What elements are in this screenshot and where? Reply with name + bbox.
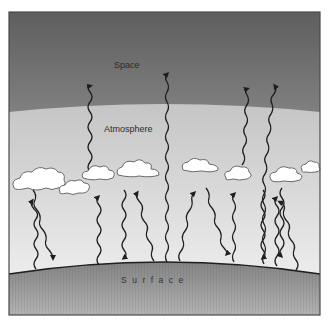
space-label: Space [114,60,140,70]
atmosphere-label: Atmosphere [104,124,153,134]
surface-region [9,262,320,315]
greenhouse-diagram: Space Atmosphere Surface [0,0,329,323]
surface-label: Surface [121,275,189,285]
space-region [9,12,320,112]
